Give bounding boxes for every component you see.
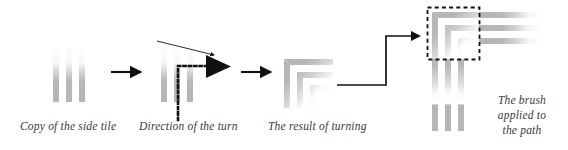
figure-canvas: Copy of the side tile Direction of the t… [0, 0, 568, 150]
label-brush-applied-to-path: The brush applied to the path [479, 93, 565, 138]
elbow-arrow [337, 36, 419, 85]
fat-triangle-arrowhead [206, 55, 231, 78]
dashed-selection-box [428, 8, 480, 60]
turn-direction-indicator [157, 41, 214, 55]
label-copy-side-tile: Copy of the side tile [20, 120, 116, 132]
dotted-turn-path [178, 66, 209, 120]
label-line-2: applied to [479, 108, 565, 123]
label-line-3: the path [479, 123, 565, 138]
label-direction-of-turn: Direction of the turn [139, 120, 238, 132]
label-line-1: The brush [479, 93, 565, 108]
label-result-of-turning: The result of turning [268, 120, 367, 132]
